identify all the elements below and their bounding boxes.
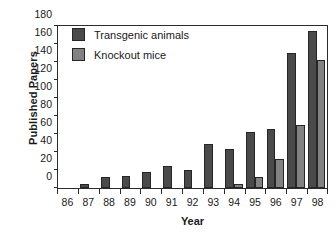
y-tick-label: 40 xyxy=(40,134,58,146)
bar[interactable] xyxy=(296,125,305,188)
y-tick-label: 60 xyxy=(40,116,58,128)
x-tick-mark xyxy=(78,189,79,194)
x-tick-label: 97 xyxy=(286,196,307,208)
x-tick-mark xyxy=(99,189,100,194)
x-tick-label: 87 xyxy=(78,196,99,208)
x-tick-label: 94 xyxy=(224,196,245,208)
y-tick-label: 0 xyxy=(46,170,58,182)
bar[interactable] xyxy=(234,184,243,188)
x-tick-label: 89 xyxy=(120,196,141,208)
bar[interactable] xyxy=(142,172,151,188)
x-tick-cell: 89 xyxy=(120,189,141,211)
x-tick-cell: 88 xyxy=(99,189,120,211)
x-tick-mark xyxy=(140,189,141,194)
legend-label: Knockout mice xyxy=(94,49,166,61)
legend-swatch xyxy=(72,28,85,41)
bar[interactable] xyxy=(317,60,326,188)
y-tick-label: 20 xyxy=(40,152,58,164)
y-axis-title: Published Papers xyxy=(27,18,39,178)
y-tick-label: 180 xyxy=(34,8,58,20)
x-axis-title: Year xyxy=(57,215,328,227)
x-tick-label: 98 xyxy=(307,196,328,208)
y-tick-label: 100 xyxy=(34,80,58,92)
x-tick-label: 88 xyxy=(99,196,120,208)
legend-item[interactable]: Transgenic animals xyxy=(72,28,189,41)
bar[interactable] xyxy=(308,31,317,188)
x-tick-mark xyxy=(265,189,266,194)
x-tick-mark xyxy=(161,189,162,194)
bar-chart-figure: Published Papers 02040608010012014016018… xyxy=(0,0,336,240)
bar-group xyxy=(306,26,327,188)
bar-group xyxy=(203,26,224,188)
x-tick-mark xyxy=(224,189,225,194)
x-tick-mark xyxy=(57,189,58,194)
x-tick-cell: 97 xyxy=(286,189,307,211)
bar[interactable] xyxy=(184,170,193,188)
bar-group xyxy=(265,26,286,188)
x-tick-label: 86 xyxy=(57,196,78,208)
bar-group xyxy=(244,26,265,188)
x-tick-label: 96 xyxy=(265,196,286,208)
bar[interactable] xyxy=(204,144,213,188)
bar-group xyxy=(286,26,307,188)
bar[interactable] xyxy=(122,176,131,188)
x-tick-cell: 98 xyxy=(307,189,328,211)
bar[interactable] xyxy=(275,159,284,188)
x-axis-ticks: 86878889909192939495969798 xyxy=(57,189,328,211)
y-tick-label: 80 xyxy=(40,98,58,110)
x-tick-cell: 93 xyxy=(203,189,224,211)
x-tick-label: 91 xyxy=(161,196,182,208)
x-tick-cell: 94 xyxy=(224,189,245,211)
x-tick-mark xyxy=(327,189,328,194)
chart-legend: Transgenic animalsKnockout mice xyxy=(72,28,189,61)
y-tick-label: 140 xyxy=(34,44,58,56)
bar[interactable] xyxy=(267,129,276,188)
x-tick-cell: 91 xyxy=(161,189,182,211)
bar-group xyxy=(224,26,245,188)
bar[interactable] xyxy=(163,166,172,188)
legend-swatch xyxy=(72,48,85,61)
bar[interactable] xyxy=(246,132,255,188)
x-tick-mark xyxy=(245,189,246,194)
legend-item[interactable]: Knockout mice xyxy=(72,48,189,61)
x-tick-label: 95 xyxy=(245,196,266,208)
x-tick-cell: 87 xyxy=(78,189,99,211)
bar[interactable] xyxy=(80,184,89,188)
bar[interactable] xyxy=(287,53,296,188)
x-tick-mark xyxy=(286,189,287,194)
x-tick-mark xyxy=(307,189,308,194)
x-tick-cell: 92 xyxy=(182,189,203,211)
x-tick-mark xyxy=(203,189,204,194)
bar[interactable] xyxy=(255,177,264,188)
x-tick-label: 90 xyxy=(140,196,161,208)
x-tick-cell: 86 xyxy=(57,189,78,211)
x-tick-mark xyxy=(120,189,121,194)
x-tick-label: 93 xyxy=(203,196,224,208)
x-tick-cell: 95 xyxy=(245,189,266,211)
bar[interactable] xyxy=(225,149,234,188)
bar[interactable] xyxy=(101,177,110,188)
legend-label: Transgenic animals xyxy=(94,29,189,41)
x-tick-label: 92 xyxy=(182,196,203,208)
x-tick-cell: 96 xyxy=(265,189,286,211)
y-tick-label: 120 xyxy=(34,62,58,74)
x-tick-cell: 90 xyxy=(140,189,161,211)
x-tick-mark xyxy=(182,189,183,194)
y-tick-label: 160 xyxy=(34,26,58,38)
